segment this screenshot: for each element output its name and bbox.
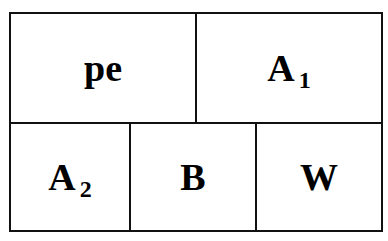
cell-label: A [267, 46, 294, 90]
cell-label: B [180, 155, 205, 199]
cell-subscript: 1 [299, 67, 311, 94]
cell-subscript: 2 [80, 176, 92, 203]
cell-label: pe [84, 46, 122, 90]
cell-label: W [300, 155, 338, 199]
cell-pe: pe [9, 12, 197, 124]
cell-label: A [48, 155, 75, 199]
cell-b: B [129, 122, 257, 232]
cell-w: W [255, 122, 383, 232]
cell-a1: A1 [195, 12, 383, 124]
cell-a2: A2 [9, 122, 131, 232]
